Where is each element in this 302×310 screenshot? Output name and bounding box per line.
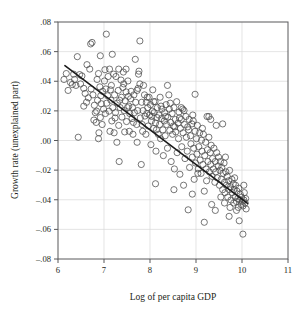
scatter-point xyxy=(116,66,122,72)
scatter-point xyxy=(188,141,194,147)
scatter-point xyxy=(153,148,159,154)
x-axis-title: Log of per capita GDP xyxy=(130,292,217,302)
y-axis-title: Growth rate (unexplained part) xyxy=(10,81,21,199)
scatter-point xyxy=(97,84,103,90)
scatter-point xyxy=(236,218,242,224)
x-tick-label: 7 xyxy=(102,265,107,275)
scatter-point xyxy=(132,56,138,62)
scatter-point xyxy=(90,92,96,98)
scatter-point xyxy=(224,173,230,179)
scatter-point xyxy=(65,87,71,93)
scatter-point xyxy=(174,99,180,105)
scatter-point xyxy=(137,38,143,44)
x-tick-label: 8 xyxy=(148,265,152,275)
scatter-point xyxy=(171,187,177,193)
scatter-point xyxy=(63,70,69,76)
scatter-point xyxy=(157,94,163,100)
scatter-point xyxy=(169,110,175,116)
scatter-point xyxy=(75,134,81,140)
scatter-point xyxy=(177,171,183,177)
y-tick-label: .02 xyxy=(40,106,51,116)
gridlines xyxy=(58,22,288,259)
scatter-point xyxy=(164,145,170,151)
scatter-point xyxy=(87,66,93,72)
scatter-point xyxy=(84,62,90,68)
scatter-point xyxy=(189,191,195,197)
scatter-point xyxy=(160,127,166,133)
scatter-point xyxy=(88,41,94,47)
scatter-point xyxy=(95,136,101,142)
scatter-point xyxy=(213,122,219,128)
scatter-point xyxy=(162,133,168,139)
scatter-point xyxy=(192,91,198,97)
scatter-point xyxy=(212,207,218,213)
scatter-point xyxy=(92,110,98,116)
scatter-point xyxy=(126,103,132,109)
scatter-point xyxy=(152,181,158,187)
y-tick-label: –.02 xyxy=(35,165,51,175)
scatter-point xyxy=(94,97,100,103)
scatter-point xyxy=(209,201,215,207)
scatter-point xyxy=(107,87,113,93)
scatter-point xyxy=(134,139,140,145)
scatter-point xyxy=(206,134,212,140)
scatter-point xyxy=(107,128,113,134)
scatter-point xyxy=(166,92,172,98)
scatter-point xyxy=(106,66,112,72)
regression-fit-line xyxy=(65,66,248,204)
scatter-point xyxy=(152,99,158,105)
scatter-point xyxy=(201,188,207,194)
fit-line xyxy=(65,66,248,204)
scatter-point xyxy=(183,134,189,140)
scatter-point xyxy=(164,82,170,88)
y-tick-label: –.08 xyxy=(35,254,51,264)
scatter-point xyxy=(114,139,120,145)
scatter-point xyxy=(167,100,173,106)
scatter-chart-figure: 67891011 .08.06.04.02.00–.02–.04–.06–.08… xyxy=(0,0,302,310)
scatter-point xyxy=(138,161,144,167)
scatter-point xyxy=(97,53,103,59)
scatter-point xyxy=(95,70,101,76)
scatter-point xyxy=(108,82,114,88)
chart-canvas: 67891011 .08.06.04.02.00–.02–.04–.06–.08… xyxy=(0,0,302,310)
y-axis-tick-labels: .08.06.04.02.00–.02–.04–.06–.08 xyxy=(35,17,52,264)
scatter-point xyxy=(186,164,192,170)
tick-marks xyxy=(54,22,288,263)
scatter-point xyxy=(220,121,226,127)
y-tick-label: –.04 xyxy=(35,195,52,205)
x-tick-label: 11 xyxy=(284,265,292,275)
scatter-point xyxy=(218,194,224,200)
scatter-point xyxy=(61,76,67,82)
scatter-point xyxy=(111,130,117,136)
scatter-point xyxy=(203,178,209,184)
x-axis-tick-labels: 67891011 xyxy=(56,265,292,275)
y-tick-label: .06 xyxy=(40,47,51,57)
scatter-point xyxy=(116,158,122,164)
scatter-point xyxy=(150,87,156,93)
scatter-point xyxy=(175,136,181,142)
scatter-point xyxy=(240,231,246,237)
scatter-point xyxy=(199,125,205,131)
scatter-point xyxy=(179,144,185,150)
scatter-point xyxy=(116,122,122,128)
scatter-point xyxy=(74,54,80,60)
scatter-point xyxy=(148,142,154,148)
scatter-point xyxy=(227,204,233,210)
scatter-point xyxy=(160,153,166,159)
y-tick-label: .04 xyxy=(40,76,51,86)
scatter-point xyxy=(115,87,121,93)
scatter-point xyxy=(168,158,174,164)
scatter-point xyxy=(190,112,196,118)
scatter-point xyxy=(201,219,207,225)
x-tick-label: 9 xyxy=(194,265,198,275)
scatter-point xyxy=(221,200,227,206)
scatter-point xyxy=(222,154,228,160)
scatter-point xyxy=(180,182,186,188)
y-tick-label: .00 xyxy=(40,136,51,146)
x-tick-label: 10 xyxy=(238,265,247,275)
x-tick-label: 6 xyxy=(56,265,61,275)
scatter-point xyxy=(109,51,115,57)
scatter-point xyxy=(171,166,177,172)
y-tick-label: –.06 xyxy=(35,224,52,234)
y-tick-label: .08 xyxy=(40,17,51,27)
